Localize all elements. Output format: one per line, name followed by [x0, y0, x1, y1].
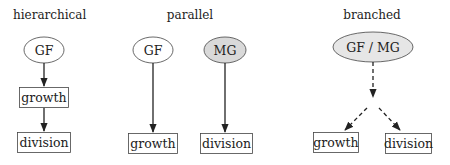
panel-title: parallel	[167, 8, 214, 22]
edge-branch-division	[379, 108, 400, 130]
node-label: GF / MG	[346, 40, 400, 55]
node-growth: growth	[129, 134, 178, 154]
node-label: MG	[214, 43, 237, 58]
node-gf-mg: GF / MG	[333, 32, 413, 62]
panel-branched: branched GF / MG growth division	[313, 8, 433, 154]
node-gf: GF	[133, 37, 173, 63]
node-division: division	[18, 133, 71, 153]
panel-parallel: parallel GF MG growth division	[129, 8, 253, 154]
node-growth: growth	[313, 133, 358, 153]
node-label: division	[384, 136, 433, 151]
node-label: growth	[313, 135, 358, 150]
node-label: GF	[144, 43, 163, 58]
node-growth: growth	[20, 88, 69, 108]
panel-title: hierarchical	[13, 8, 86, 22]
node-mg: MG	[204, 37, 246, 63]
node-label: division	[19, 135, 68, 150]
edge-branch-growth	[345, 108, 367, 130]
node-gf: GF	[24, 37, 64, 63]
node-label: division	[202, 136, 251, 151]
node-label: growth	[21, 90, 66, 105]
node-label: GF	[35, 43, 54, 58]
node-division: division	[384, 134, 433, 154]
panel-title: branched	[343, 8, 401, 22]
node-division: division	[201, 134, 253, 154]
diagram-canvas: hierarchical GF growth division parallel…	[0, 0, 450, 165]
panel-hierarchical: hierarchical GF growth division	[13, 8, 86, 153]
node-label: growth	[130, 136, 175, 151]
